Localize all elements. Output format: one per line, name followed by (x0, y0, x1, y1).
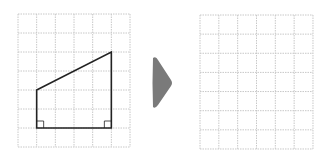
arrow-right-icon (153, 57, 173, 107)
arrow-shape (153, 57, 173, 107)
right-angle-mark (37, 121, 44, 128)
right-grid (200, 15, 313, 149)
left-grid (18, 14, 130, 147)
diagram-canvas (0, 0, 327, 160)
right-angle-mark (104, 121, 111, 128)
